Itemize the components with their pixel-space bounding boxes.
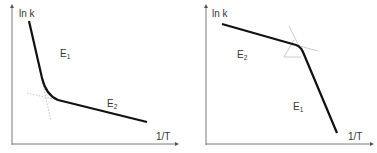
left-dotted-extrapolation-e1 — [42, 80, 51, 121]
left-e2-label: E2 — [107, 98, 118, 110]
left-curve — [29, 21, 147, 122]
right-e1-label: E1 — [293, 101, 304, 113]
left-y-axis-label: ln k — [19, 8, 36, 19]
right-curve — [222, 24, 337, 133]
right-x-axis-label: 1/T — [348, 131, 362, 142]
right-y-axis-label: ln k — [212, 8, 229, 19]
arrhenius-diagram: ln k 1/T E1 E2 ln k 1/T E2 E1 — [0, 0, 377, 153]
left-e1-label: E1 — [60, 48, 71, 60]
right-panel: ln k 1/T E2 E1 — [206, 6, 372, 145]
left-x-axis-label: 1/T — [156, 131, 170, 142]
right-e2-label: E2 — [237, 49, 248, 61]
left-panel: ln k 1/T E1 E2 — [12, 6, 177, 145]
